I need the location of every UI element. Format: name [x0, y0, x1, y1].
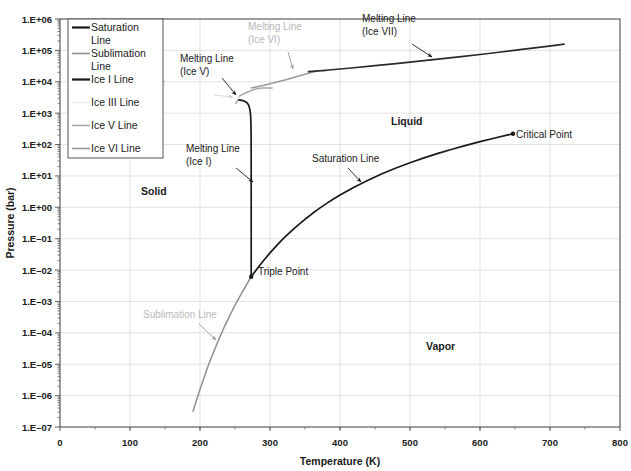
- legend-label: Sublimation: [91, 47, 146, 59]
- liquid-region-label: Liquid: [391, 115, 423, 127]
- melting-line-ice-v-label: (Ice V): [180, 66, 209, 77]
- x-tick-label: 600: [472, 437, 488, 448]
- y-axis-title: Pressure (bar): [4, 187, 16, 258]
- legend-label: Line: [91, 60, 111, 72]
- melting-line-ice-vii-label: Melting Line: [362, 13, 416, 24]
- y-tick-label: 1.E+02: [22, 139, 52, 150]
- x-tick-label: 100: [122, 437, 138, 448]
- x-tick-label: 300: [262, 437, 278, 448]
- melting-line-ice-vi-label: (Ice VI): [248, 34, 280, 45]
- legend-label: Ice III Line: [91, 96, 140, 108]
- x-tick-label: 200: [192, 437, 208, 448]
- melting-line-ice-vi-label: Melting Line: [248, 21, 302, 32]
- phase-diagram-figure: 01002003004005006007008001.E+061.E+051.E…: [0, 0, 631, 471]
- legend-box: [68, 19, 163, 158]
- y-tick-label: 1.E–07: [22, 422, 52, 433]
- y-tick-label: 1.E+04: [22, 76, 53, 87]
- y-tick-label: 1.E+00: [22, 202, 52, 213]
- x-axis-title: Temperature (K): [300, 455, 380, 467]
- y-tick-label: 1.E–02: [22, 265, 52, 276]
- marker-triple-point: [249, 275, 253, 279]
- y-tick-label: 1.E–03: [22, 296, 52, 307]
- melting-line-ice-vii-label: (Ice VII): [362, 26, 397, 37]
- critical-point-label: Critical Point: [516, 129, 572, 140]
- y-tick-label: 1.E–01: [22, 233, 53, 244]
- y-tick-label: 1.E+05: [22, 45, 53, 56]
- solid-region-label: Solid: [141, 185, 167, 197]
- legend-label: Ice I Line: [91, 73, 134, 85]
- legend-label: Ice V Line: [91, 119, 138, 131]
- sublimation-line-label: Sublimation Line: [143, 309, 217, 320]
- y-tick-label: 1.E–04: [22, 327, 53, 338]
- legend-label: Line: [91, 34, 111, 46]
- y-tick-label: 1.E–06: [22, 390, 52, 401]
- triple-point-label: Triple Point: [258, 266, 308, 277]
- melting-line-ice-i-label: Melting Line: [186, 143, 240, 154]
- chart-legend: SaturationLineSublimationLineIce I LineI…: [68, 19, 163, 158]
- y-tick-label: 1.E–05: [22, 359, 53, 370]
- x-tick-label: 0: [57, 437, 62, 448]
- marker-critical-point: [511, 132, 515, 136]
- y-tick-label: 1.E+06: [22, 14, 52, 25]
- legend-label: Saturation: [91, 21, 139, 33]
- x-tick-label: 800: [612, 437, 628, 448]
- legend-label: Ice VI Line: [91, 142, 141, 154]
- chart-canvas: 01002003004005006007008001.E+061.E+051.E…: [0, 0, 631, 471]
- x-tick-label: 400: [332, 437, 348, 448]
- melting-line-ice-v-label: Melting Line: [180, 53, 234, 64]
- x-tick-label: 500: [402, 437, 418, 448]
- melting-line-ice-i-label: (Ice I): [186, 156, 212, 167]
- x-tick-label: 700: [542, 437, 558, 448]
- vapor-region-label: Vapor: [426, 340, 455, 352]
- y-tick-label: 1.E+03: [22, 108, 52, 119]
- saturation-line-label: Saturation Line: [312, 153, 380, 164]
- y-tick-label: 1.E+01: [22, 170, 53, 181]
